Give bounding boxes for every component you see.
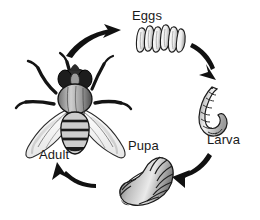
arrow-larva-to-pupa xyxy=(172,153,212,188)
pupa-illustration xyxy=(120,157,173,205)
fly-thorax xyxy=(58,84,92,114)
arrow-adult-to-eggs xyxy=(66,24,121,58)
stage-label-adult: Adult xyxy=(39,148,69,161)
egg-cluster-illustration xyxy=(136,25,185,52)
larva-illustration xyxy=(199,87,227,136)
fly-life-cycle-diagram: Eggs Larva Pupa Adult xyxy=(0,0,260,220)
arrow-eggs-to-larva xyxy=(190,43,216,80)
stage-label-eggs: Eggs xyxy=(132,9,162,22)
stage-label-pupa: Pupa xyxy=(128,139,159,152)
life-cycle-illustration xyxy=(0,0,260,220)
adult-fly-illustration xyxy=(16,53,131,158)
arrow-pupa-to-adult xyxy=(52,162,96,188)
stage-label-larva: Larva xyxy=(207,133,240,146)
